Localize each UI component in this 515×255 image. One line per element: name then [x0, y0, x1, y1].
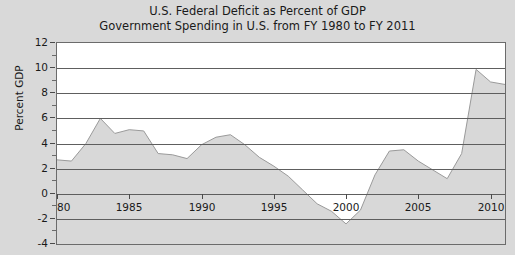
gridline-8	[57, 93, 505, 94]
gridline--2	[57, 219, 505, 220]
y-tick-mark-6	[50, 117, 55, 118]
chart-title-block: U.S. Federal Deficit as Percent of GDP G…	[0, 4, 515, 33]
chart-figure: U.S. Federal Deficit as Percent of GDP G…	[0, 0, 515, 255]
plot-area: 1980198519901995200020052010	[56, 42, 506, 245]
y-tick-label-10: 10	[8, 61, 48, 73]
y-tick-mark--2	[50, 218, 55, 219]
x-tick-mark-2000	[346, 194, 347, 199]
y-tick-mark-0	[50, 193, 55, 194]
x-tick-label-1995: 1995	[261, 201, 288, 213]
gridline-0	[57, 194, 505, 195]
x-tick-mark-2010	[491, 194, 492, 199]
y-tick-label-2: 2	[8, 162, 48, 174]
y-tick-label-0: 0	[8, 187, 48, 199]
x-tick-label-2010: 2010	[478, 201, 505, 213]
y-tick-label--4: -4	[8, 237, 48, 249]
y-tick-mark-2	[50, 168, 55, 169]
gridline-4	[57, 144, 505, 145]
chart-title-line-1: U.S. Federal Deficit as Percent of GDP	[0, 4, 515, 19]
y-tick-label-6: 6	[8, 111, 48, 123]
x-tick-label-1985: 1985	[116, 201, 143, 213]
x-tick-mark-1985	[129, 194, 130, 199]
y-tick-mark-12	[50, 42, 55, 43]
x-tick-mark-1990	[202, 194, 203, 199]
y-tick-label--2: -2	[8, 212, 48, 224]
x-tick-mark-1980	[57, 194, 58, 199]
gridline-2	[57, 169, 505, 170]
gridline-6	[57, 118, 505, 119]
gridline-10	[57, 68, 505, 69]
y-tick-mark-8	[50, 92, 55, 93]
area-fill-path	[57, 69, 505, 244]
x-tick-label-2000: 2000	[333, 201, 360, 213]
y-tick-mark--4	[50, 243, 55, 244]
chart-title-line-2: Government Spending in U.S. from FY 1980…	[0, 19, 515, 34]
y-tick-mark-10	[50, 67, 55, 68]
x-tick-label-1980: 1980	[56, 201, 70, 213]
x-tick-label-1990: 1990	[189, 201, 216, 213]
y-tick-label-12: 12	[8, 36, 48, 48]
y-tick-label-8: 8	[8, 86, 48, 98]
x-tick-mark-1995	[274, 194, 275, 199]
y-tick-mark-4	[50, 143, 55, 144]
x-tick-label-2005: 2005	[405, 201, 432, 213]
y-tick-label-4: 4	[8, 137, 48, 149]
x-tick-mark-2005	[418, 194, 419, 199]
